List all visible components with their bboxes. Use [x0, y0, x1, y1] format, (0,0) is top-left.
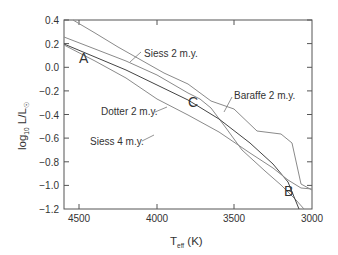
x-tick-label: 4500 [68, 213, 91, 224]
x-tick-labels: 4500 4000 3500 3000 [68, 213, 324, 224]
series-siess-4my [64, 45, 312, 189]
y-tick-label: −1.2 [39, 204, 59, 215]
series-dotter-2my [64, 44, 299, 209]
y-axis-title: log10 L/L☉ [16, 102, 30, 150]
y-tick-label: 0.4 [45, 15, 59, 26]
label-siess-2my: Siess 2 m.y. [144, 48, 198, 59]
y-tick-label: 0.0 [45, 62, 59, 73]
y-tick-label: −1.0 [39, 180, 59, 191]
x-tick-label: 3000 [301, 213, 324, 224]
label-dotter-2my: Dotter 2 m.y. [101, 106, 158, 117]
y-tick-label: −0.8 [39, 157, 59, 168]
point-c-label: C [188, 94, 198, 110]
x-tick-label: 3500 [223, 213, 246, 224]
hr-diagram-chart: 0.4 0.2 0.0 −0.2 −0.4 −0.6 −0.8 −1.0 −1.… [0, 0, 338, 255]
x-tick-label: 4000 [146, 213, 169, 224]
point-labels: A B C [79, 50, 293, 199]
y-tick-label: −0.2 [39, 86, 59, 97]
y-tick-label: −0.6 [39, 133, 59, 144]
y-tick-labels: 0.4 0.2 0.0 −0.2 −0.4 −0.6 −0.8 −1.0 −1.… [39, 15, 59, 215]
y-tick-label: −0.4 [39, 110, 59, 121]
label-baraffe-2my: Baraffe 2 m.y. [234, 90, 295, 101]
point-b-label: B [284, 183, 293, 199]
y-tick-label: 0.2 [45, 39, 59, 50]
series-baraffe-2my [64, 37, 304, 209]
label-siess-4my: Siess 4 m.y. [90, 136, 144, 147]
point-a-label: A [79, 50, 89, 66]
x-axis-title: Teff (K) [170, 235, 203, 249]
